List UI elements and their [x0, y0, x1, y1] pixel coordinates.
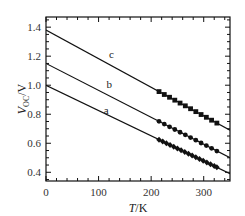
marker-circle — [214, 149, 219, 154]
y-tick-label: 1.2 — [27, 50, 41, 62]
marker-square — [157, 89, 162, 94]
curve-label-b: b — [106, 78, 112, 90]
marker-square — [178, 101, 183, 106]
y-axis-ticks: 0.40.60.81.01.21.4 — [27, 20, 230, 180]
x-axis-label: T/K — [129, 201, 148, 215]
marker-square — [204, 115, 209, 120]
curve-label-a: a — [104, 104, 109, 116]
marker-square — [209, 118, 214, 123]
x-tick-label: 200 — [143, 186, 160, 198]
marker-circle — [188, 135, 193, 140]
marker-square — [193, 109, 198, 114]
marker-circle — [167, 124, 172, 129]
marker-circle — [183, 132, 188, 137]
marker-square — [162, 92, 167, 97]
marker-square — [199, 112, 204, 117]
marker-circle — [162, 122, 167, 127]
marker-circle — [172, 127, 177, 132]
y-tick-label: 1.0 — [27, 79, 41, 91]
marker-circle — [193, 138, 198, 143]
plot-area: abc — [46, 30, 230, 174]
y-tick-label: 0.8 — [27, 108, 41, 120]
marker-circle — [209, 146, 214, 151]
curve-label-c: c — [109, 48, 114, 60]
marker-circle — [178, 130, 183, 135]
marker-square — [214, 121, 219, 126]
x-tick-label: 0 — [43, 186, 49, 198]
y-axis-label: VOC/V — [15, 83, 31, 114]
x-axis-ticks: 0100200300 — [43, 17, 224, 198]
y-tick-label: 1.4 — [27, 21, 41, 33]
chart: abc 0100200300 0.40.60.81.01.21.4 T/K VO… — [0, 0, 245, 216]
marker-square — [183, 103, 188, 108]
marker-square — [188, 106, 193, 111]
marker-circle — [204, 143, 209, 148]
marker-square — [172, 98, 177, 103]
y-tick-label: 0.6 — [27, 137, 41, 149]
marker-circle — [199, 141, 204, 146]
x-tick-label: 300 — [195, 186, 212, 198]
marker-circle — [157, 119, 162, 124]
y-tick-label: 0.4 — [27, 166, 41, 178]
marker-square — [167, 95, 172, 100]
x-tick-label: 100 — [90, 186, 107, 198]
